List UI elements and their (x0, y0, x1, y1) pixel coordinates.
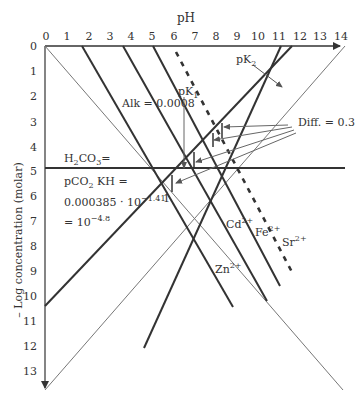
carbonate-speciation-diagram: pH 0 1 2 3 4 5 6 7 8 9 10 11 12 13 14 0 … (0, 0, 358, 398)
alkalinity-label: Alk = 0.0008 (121, 97, 195, 110)
x-tick: 9 (234, 30, 241, 43)
x-tick: 10 (251, 30, 265, 43)
y-tick: 1 (30, 65, 37, 78)
y-tick: 13 (23, 365, 37, 378)
x-tick: 12 (293, 30, 307, 43)
fe-label: Fe2+ (255, 224, 280, 239)
x-tick: 4 (128, 30, 135, 43)
y-tick: 2 (30, 90, 37, 103)
pco2-kh-label: pCO2 KH = (64, 175, 128, 190)
y-tick: 11 (23, 315, 37, 328)
x-tick-labels: 0 1 2 3 4 5 6 7 8 9 10 11 12 13 14 (43, 30, 349, 43)
pk2-label: pK2 (236, 53, 256, 68)
x-tick: 1 (64, 30, 71, 43)
sr-label: Sr2+ (282, 234, 307, 249)
x-tick: 8 (213, 30, 220, 43)
zn-label: Zn2+ (215, 261, 242, 276)
y-tick: 5 (30, 165, 37, 178)
x-tick: 3 (107, 30, 114, 43)
x-tick: 13 (313, 30, 327, 43)
x-tick: 0 (43, 30, 50, 43)
x-tick: 14 (334, 30, 348, 43)
y-tick: 6 (30, 190, 37, 203)
x-tick: 5 (149, 30, 156, 43)
x-tick: 7 (192, 30, 199, 43)
y-tick: 8 (30, 240, 37, 253)
y-tick: 7 (30, 215, 37, 228)
equation-line-4: = 10−4.8 (64, 214, 110, 229)
y-tick: 10 (23, 290, 37, 303)
y-tick: 3 (30, 116, 37, 129)
h2co3-label: H2CO3= (64, 152, 110, 167)
equation-line-3: 0.000385 · 10−1.41 (64, 194, 166, 209)
x-tick: 2 (86, 30, 93, 43)
y-axis-title: – Log concentration (molar) (12, 162, 25, 317)
x-tick: 6 (171, 30, 178, 43)
y-tick: 9 (30, 265, 37, 278)
diff-label: Diff. = 0.3 (298, 116, 355, 129)
y-tick: 12 (23, 340, 37, 353)
y-tick-labels: 0 1 2 3 4 5 6 7 8 9 10 11 12 13 (23, 40, 37, 378)
y-tick: 0 (30, 40, 37, 53)
x-axis-title: pH (177, 11, 195, 25)
x-tick: 11 (272, 30, 286, 43)
cd-line (123, 46, 267, 301)
label-one: 1 (163, 192, 170, 205)
y-tick: 4 (30, 141, 37, 154)
